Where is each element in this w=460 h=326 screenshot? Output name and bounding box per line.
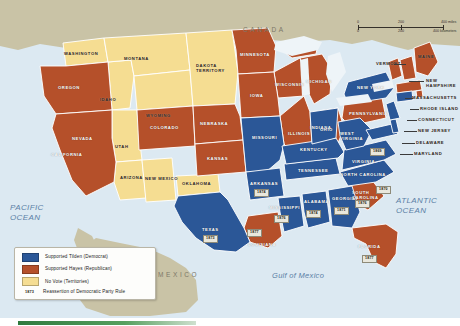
state-new-mexico bbox=[142, 158, 176, 202]
legend-swatch-territory-yellow bbox=[22, 277, 39, 286]
state-mississippi bbox=[278, 196, 304, 232]
datebox-alabama: 1874 bbox=[306, 210, 321, 218]
state-minnesota bbox=[232, 28, 276, 74]
leader-new-jersey bbox=[404, 131, 417, 132]
leader-new-hampshire bbox=[409, 81, 424, 82]
state-iowa bbox=[238, 72, 280, 118]
datebox-florida: 1877 bbox=[362, 255, 377, 263]
datebox-texas: 1873 bbox=[203, 235, 218, 243]
datebox-mississippi: 1876 bbox=[274, 215, 289, 223]
state-idaho bbox=[108, 60, 134, 110]
state-texas bbox=[174, 192, 250, 252]
leader-connecticut bbox=[407, 120, 417, 121]
legend-label-territory: No Vote (Territories) bbox=[45, 280, 89, 285]
scale-km-tick-400: 400 bbox=[433, 29, 439, 33]
datebox-louisiana: 1877 bbox=[247, 229, 262, 237]
state-missouri bbox=[241, 116, 284, 172]
state-new-hampshire bbox=[400, 56, 416, 80]
map-legend: Supported Tilden (Democrat) Supported Ha… bbox=[14, 247, 156, 300]
legend-item-reassertion: 1873 Reassertion of Democratic Party Rul… bbox=[22, 290, 149, 295]
scale-miles-unit: miles bbox=[448, 20, 456, 24]
state-connecticut bbox=[396, 91, 413, 102]
scale-km-unit: kilometers bbox=[440, 29, 456, 33]
scale-miles-tick-400: 400 bbox=[441, 20, 447, 24]
leader-maryland bbox=[400, 154, 413, 155]
legend-item-tilden: Supported Tilden (Democrat) bbox=[22, 253, 149, 262]
bottom-accent-strip bbox=[0, 318, 460, 326]
scale-km-tick-200: 200 bbox=[398, 29, 404, 33]
state-oregon bbox=[40, 62, 112, 114]
leader-delaware bbox=[402, 143, 415, 144]
scale-bar: 0 200 400 miles 0 200 400 kilometers bbox=[358, 20, 454, 34]
state-colorado bbox=[137, 106, 195, 150]
datebox-south-carolina: 1876 bbox=[355, 200, 370, 208]
state-arizona bbox=[114, 160, 146, 200]
legend-label-tilden: Supported Tilden (Democrat) bbox=[45, 255, 108, 260]
state-new-jersey bbox=[386, 101, 400, 120]
state-kansas bbox=[195, 140, 246, 176]
scale-miles-tick-0: 0 bbox=[357, 20, 359, 24]
leader-rhode-island bbox=[410, 109, 419, 110]
datebox-georgia: 1871 bbox=[334, 207, 349, 215]
legend-label-reassertion: Reassertion of Democratic Party Rule bbox=[43, 290, 125, 295]
legend-swatch-tilden-blue bbox=[22, 253, 39, 262]
datebox-arkansas: 1874 bbox=[254, 189, 269, 197]
state-dakota-terr bbox=[186, 30, 238, 106]
legend-sample-date: 1873 bbox=[22, 290, 37, 294]
datebox-north-carolina: 1870 bbox=[376, 186, 391, 194]
state-indiana bbox=[310, 108, 338, 144]
state-maine bbox=[414, 42, 438, 76]
state-rhode-island bbox=[416, 90, 423, 98]
legend-item-territory: No Vote (Territories) bbox=[22, 277, 149, 286]
state-wyoming bbox=[134, 70, 193, 110]
state-washington bbox=[63, 38, 108, 66]
legend-item-hayes: Supported Hayes (Republican) bbox=[22, 265, 149, 274]
legend-label-hayes: Supported Hayes (Republican) bbox=[45, 267, 112, 272]
scale-miles-tick-200: 200 bbox=[398, 20, 404, 24]
legend-swatch-hayes-brown bbox=[22, 265, 39, 274]
leader-massachusetts bbox=[405, 98, 413, 99]
leader-vermont bbox=[394, 64, 406, 65]
state-nebraska bbox=[193, 104, 243, 144]
green-bar bbox=[18, 321, 196, 325]
scale-km-tick-0: 0 bbox=[357, 29, 359, 33]
datebox-virginia: 1869 bbox=[370, 148, 385, 156]
election-map: CANADA MEXICO PACIFIC OCEAN ATLANTIC OCE… bbox=[0, 0, 460, 326]
